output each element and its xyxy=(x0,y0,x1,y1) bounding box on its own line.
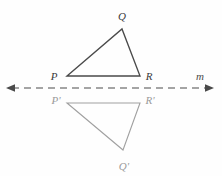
geometry-figure: P Q R P' Q' R' m xyxy=(0,0,222,176)
vertex-label-r-prime: R' xyxy=(144,94,155,106)
triangle-pqr xyxy=(67,29,140,76)
reflection-diagram: P Q R P' Q' R' m xyxy=(0,0,222,176)
vertex-label-p: P xyxy=(50,70,58,82)
vertex-label-q-prime: Q' xyxy=(119,160,130,172)
vertex-label-r: R xyxy=(145,70,153,82)
vertex-label-p-prime: P' xyxy=(50,94,61,106)
triangle-pqr-prime xyxy=(67,103,140,150)
reflection-line-arrow-left xyxy=(6,84,15,91)
triangle-pqr-outline xyxy=(67,29,140,76)
triangle-pqr-prime-outline xyxy=(67,103,140,150)
line-label-m: m xyxy=(196,70,204,82)
line-of-reflection-m xyxy=(6,84,214,91)
reflection-line-arrow-right xyxy=(205,84,214,91)
vertex-label-q: Q xyxy=(118,10,126,22)
